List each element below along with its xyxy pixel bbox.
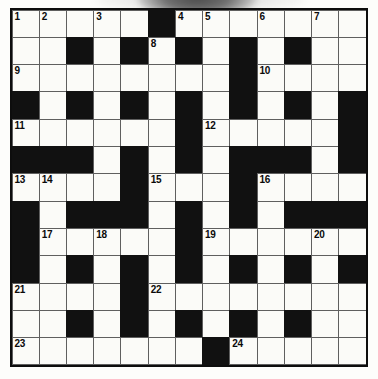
grid-cell[interactable] <box>39 310 67 338</box>
grid-cell[interactable] <box>93 173 121 201</box>
grid-cell[interactable] <box>120 337 148 365</box>
grid-cell[interactable] <box>311 91 339 119</box>
grid-cell[interactable] <box>148 64 176 92</box>
grid-cell[interactable] <box>284 64 312 92</box>
grid-cell[interactable] <box>175 337 203 365</box>
grid-cell[interactable] <box>229 119 257 147</box>
grid-cell[interactable]: 19 <box>202 228 230 256</box>
grid-cell[interactable] <box>202 37 230 65</box>
grid-cell[interactable] <box>311 64 339 92</box>
grid-cell[interactable] <box>311 173 339 201</box>
grid-cell[interactable] <box>257 283 285 311</box>
grid-cell[interactable] <box>66 337 94 365</box>
grid-cell[interactable] <box>39 255 67 283</box>
grid-cell[interactable] <box>338 283 366 311</box>
grid-cell[interactable] <box>257 337 285 365</box>
grid-cell[interactable] <box>257 119 285 147</box>
grid-cell[interactable] <box>338 337 366 365</box>
grid-cell[interactable] <box>229 228 257 256</box>
grid-cell[interactable]: 8 <box>148 37 176 65</box>
grid-cell[interactable] <box>12 37 40 65</box>
grid-cell[interactable] <box>93 255 121 283</box>
grid-cell[interactable]: 23 <box>12 337 40 365</box>
grid-cell[interactable]: 2 <box>39 10 67 38</box>
grid-cell[interactable]: 20 <box>311 228 339 256</box>
grid-cell[interactable]: 4 <box>175 10 203 38</box>
grid-cell[interactable] <box>202 173 230 201</box>
grid-cell[interactable] <box>120 64 148 92</box>
grid-cell[interactable] <box>202 146 230 174</box>
grid-cell[interactable] <box>257 255 285 283</box>
grid-cell[interactable] <box>311 310 339 338</box>
grid-cell[interactable]: 12 <box>202 119 230 147</box>
grid-cell[interactable] <box>284 228 312 256</box>
grid-cell[interactable] <box>338 228 366 256</box>
grid-cell[interactable] <box>66 64 94 92</box>
grid-cell[interactable] <box>175 64 203 92</box>
grid-cell[interactable]: 21 <box>12 283 40 311</box>
grid-cell[interactable] <box>284 10 312 38</box>
grid-cell[interactable] <box>120 228 148 256</box>
grid-cell[interactable] <box>39 283 67 311</box>
grid-cell[interactable] <box>120 119 148 147</box>
grid-cell[interactable]: 24 <box>229 337 257 365</box>
grid-cell[interactable] <box>93 310 121 338</box>
grid-cell[interactable] <box>148 91 176 119</box>
grid-cell[interactable] <box>93 146 121 174</box>
grid-cell[interactable] <box>66 228 94 256</box>
grid-cell[interactable]: 16 <box>257 173 285 201</box>
grid-cell[interactable] <box>338 37 366 65</box>
grid-cell[interactable] <box>39 119 67 147</box>
grid-cell[interactable] <box>284 283 312 311</box>
grid-cell[interactable] <box>202 91 230 119</box>
grid-cell[interactable] <box>175 173 203 201</box>
grid-cell[interactable]: 6 <box>257 10 285 38</box>
grid-cell[interactable] <box>93 64 121 92</box>
grid-cell[interactable] <box>202 64 230 92</box>
grid-cell[interactable] <box>93 37 121 65</box>
grid-cell[interactable] <box>39 91 67 119</box>
grid-cell[interactable] <box>311 146 339 174</box>
grid-cell[interactable] <box>93 337 121 365</box>
grid-cell[interactable]: 11 <box>12 119 40 147</box>
grid-cell[interactable] <box>311 37 339 65</box>
grid-cell[interactable]: 22 <box>148 283 176 311</box>
grid-cell[interactable]: 15 <box>148 173 176 201</box>
grid-cell[interactable]: 9 <box>12 64 40 92</box>
grid-cell[interactable]: 7 <box>311 10 339 38</box>
grid-cell[interactable] <box>257 228 285 256</box>
grid-cell[interactable]: 1 <box>12 10 40 38</box>
grid-cell[interactable] <box>202 283 230 311</box>
grid-cell[interactable] <box>229 10 257 38</box>
grid-cell[interactable] <box>284 119 312 147</box>
grid-cell[interactable] <box>257 91 285 119</box>
grid-cell[interactable] <box>311 255 339 283</box>
grid-cell[interactable] <box>284 173 312 201</box>
grid-cell[interactable] <box>257 310 285 338</box>
grid-cell[interactable] <box>39 37 67 65</box>
grid-cell[interactable] <box>148 337 176 365</box>
grid-cell[interactable]: 17 <box>39 228 67 256</box>
grid-cell[interactable] <box>257 201 285 229</box>
grid-cell[interactable]: 5 <box>202 10 230 38</box>
grid-cell[interactable] <box>148 201 176 229</box>
grid-cell[interactable] <box>338 64 366 92</box>
grid-cell[interactable] <box>93 119 121 147</box>
grid-cell[interactable] <box>66 119 94 147</box>
grid-cell[interactable] <box>338 10 366 38</box>
grid-cell[interactable] <box>93 91 121 119</box>
grid-cell[interactable] <box>229 283 257 311</box>
grid-cell[interactable] <box>338 310 366 338</box>
grid-cell[interactable]: 3 <box>93 10 121 38</box>
grid-cell[interactable] <box>93 283 121 311</box>
grid-cell[interactable] <box>148 228 176 256</box>
grid-cell[interactable] <box>66 10 94 38</box>
grid-cell[interactable] <box>175 283 203 311</box>
grid-cell[interactable] <box>257 37 285 65</box>
grid-cell[interactable] <box>12 310 40 338</box>
grid-cell[interactable] <box>148 146 176 174</box>
grid-cell[interactable] <box>39 201 67 229</box>
grid-cell[interactable] <box>120 10 148 38</box>
grid-cell[interactable] <box>284 337 312 365</box>
grid-cell[interactable]: 10 <box>257 64 285 92</box>
